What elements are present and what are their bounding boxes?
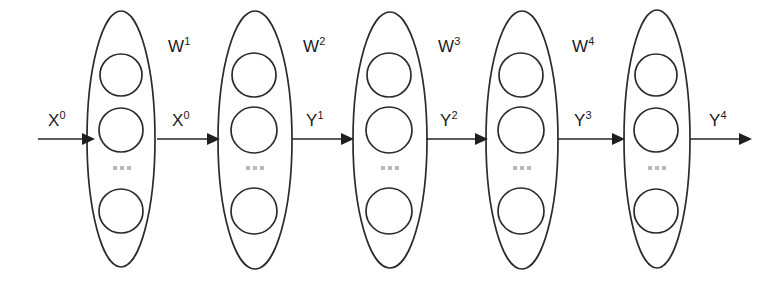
node-circle[interactable]	[100, 54, 142, 96]
weight-label-w3: W3	[438, 38, 461, 55]
node-circle[interactable]	[99, 108, 143, 152]
node-circle[interactable]	[635, 54, 677, 96]
node-circle[interactable]	[366, 188, 412, 234]
layer-input-layer[interactable]	[87, 11, 155, 267]
vertical-ellipsis-icon	[648, 166, 666, 170]
signal-label-y2: Y2	[440, 112, 458, 129]
node-circle[interactable]	[231, 188, 277, 234]
node-circle[interactable]	[498, 188, 544, 234]
arrow-layer-0-to-layer-1	[157, 133, 220, 145]
vertical-ellipsis-icon	[113, 166, 131, 170]
vertical-ellipsis-icon	[381, 166, 399, 170]
node-circle[interactable]	[99, 189, 143, 233]
node-circle[interactable]	[634, 189, 678, 233]
vertical-ellipsis-icon	[246, 166, 264, 170]
arrow-layer-4-to-output	[690, 133, 752, 145]
node-circle[interactable]	[499, 53, 543, 97]
node-circle[interactable]	[367, 53, 411, 97]
arrow-layer-1-to-layer-2	[292, 133, 354, 145]
node-circle[interactable]	[498, 107, 544, 153]
neural-network-diagram: X0 X0 Y1 Y2 Y3 Y4 W1 W2 W3 W4	[0, 0, 770, 281]
weight-label-w1: W1	[168, 38, 191, 55]
node-circle[interactable]	[231, 107, 277, 153]
node-circle[interactable]	[634, 108, 678, 152]
signal-label-x0: X0	[172, 112, 190, 129]
node-circle[interactable]	[232, 53, 276, 97]
diagram-canvas	[0, 0, 770, 281]
arrow-layer-2-to-layer-3	[426, 133, 488, 145]
arrow-layer-3-to-layer-4	[557, 133, 625, 145]
signal-label-input: X0	[48, 112, 66, 129]
layer-hidden-layer-3[interactable]	[486, 11, 558, 269]
signal-label-y4: Y4	[709, 112, 727, 129]
signal-label-y1: Y1	[306, 112, 324, 129]
vertical-ellipsis-icon	[513, 166, 531, 170]
weight-label-w4: W4	[572, 38, 595, 55]
layer-hidden-layer-2[interactable]	[353, 12, 427, 268]
layer-hidden-layer-1[interactable]	[218, 11, 292, 269]
layer-output-layer[interactable]	[624, 10, 690, 268]
weight-label-w2: W2	[303, 38, 326, 55]
signal-label-y3: Y3	[574, 112, 592, 129]
node-circle[interactable]	[366, 107, 412, 153]
